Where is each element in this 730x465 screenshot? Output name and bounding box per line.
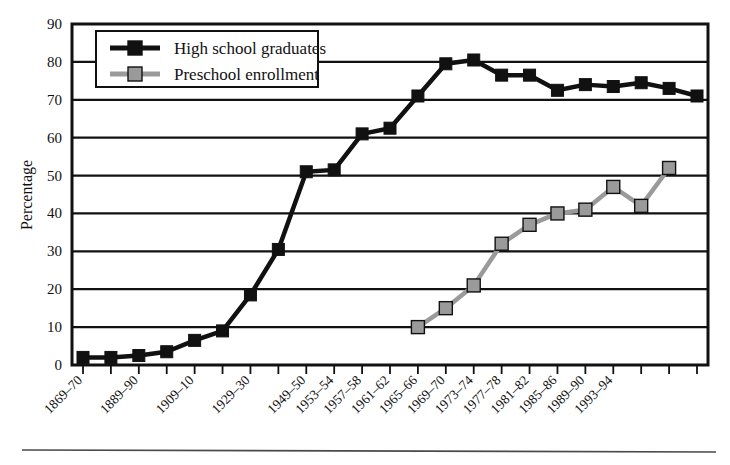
data-point-marker xyxy=(384,122,396,134)
data-point-marker xyxy=(300,166,312,178)
data-point-marker xyxy=(579,203,592,216)
data-point-marker xyxy=(663,161,676,174)
y-tick-label: 40 xyxy=(47,205,62,221)
x-tick-label: 1929–30 xyxy=(209,372,253,416)
data-point-marker xyxy=(607,81,619,93)
data-point-marker xyxy=(356,128,368,140)
data-point-marker xyxy=(495,237,508,250)
x-axis-tick-labels: 1869–701889–901909–101929–301949–501953–… xyxy=(41,372,615,416)
y-tick-label: 0 xyxy=(55,357,63,373)
data-point-marker xyxy=(328,164,340,176)
y-tick-label: 60 xyxy=(47,130,62,146)
data-point-marker xyxy=(579,79,591,91)
chart-legend: High school graduatesPreschool enrollmen… xyxy=(96,31,326,87)
data-point-marker xyxy=(663,82,675,94)
y-tick-label: 30 xyxy=(47,243,62,259)
x-tick-label: 1869–70 xyxy=(41,372,85,416)
y-tick-label: 50 xyxy=(47,168,62,184)
data-point-marker xyxy=(105,351,117,363)
data-point-marker xyxy=(467,279,480,292)
y-tick-label: 90 xyxy=(47,16,62,32)
data-point-marker xyxy=(411,321,424,334)
data-point-marker xyxy=(440,58,452,70)
line-chart: 0102030405060708090 Percentage 1869–7018… xyxy=(0,0,730,465)
data-point-marker xyxy=(77,351,89,363)
y-axis-tick-labels: 0102030405060708090 xyxy=(47,16,62,373)
y-axis-title: Percentage xyxy=(18,160,36,230)
data-point-marker xyxy=(468,54,480,66)
data-point-marker xyxy=(439,302,452,315)
data-point-marker xyxy=(272,243,284,255)
y-tick-label: 70 xyxy=(47,92,62,108)
data-point-marker xyxy=(496,69,508,81)
footer-rule xyxy=(22,450,716,452)
y-tick-label: 80 xyxy=(47,54,62,70)
legend-label: High school graduates xyxy=(174,39,326,58)
x-tick-label: 1909–10 xyxy=(153,372,197,416)
data-point-marker xyxy=(635,77,647,89)
data-point-marker xyxy=(524,69,536,81)
data-point-marker xyxy=(523,218,536,231)
data-point-marker xyxy=(551,84,563,96)
data-point-marker xyxy=(189,334,201,346)
data-point-marker xyxy=(551,207,564,220)
data-point-marker xyxy=(635,199,648,212)
chart-figure: 0102030405060708090 Percentage 1869–7018… xyxy=(0,0,730,465)
series-preschool-enrollment xyxy=(411,161,675,333)
series-line xyxy=(83,60,697,357)
legend-marker-high-school-graduates xyxy=(128,41,142,55)
data-point-marker xyxy=(161,346,173,358)
data-point-marker xyxy=(133,350,145,362)
legend-marker-preschool-enrollment xyxy=(128,67,142,81)
series-line xyxy=(418,168,669,327)
y-tick-label: 10 xyxy=(47,319,62,335)
data-point-marker xyxy=(244,289,256,301)
data-point-marker xyxy=(691,90,703,102)
x-tick-label: 1889–90 xyxy=(97,372,141,416)
data-point-marker xyxy=(217,325,229,337)
legend-label: Preschool enrollment xyxy=(174,65,319,84)
data-point-marker xyxy=(607,180,620,193)
data-point-marker xyxy=(412,90,424,102)
gridlines xyxy=(72,62,708,327)
y-tick-label: 20 xyxy=(47,281,62,297)
